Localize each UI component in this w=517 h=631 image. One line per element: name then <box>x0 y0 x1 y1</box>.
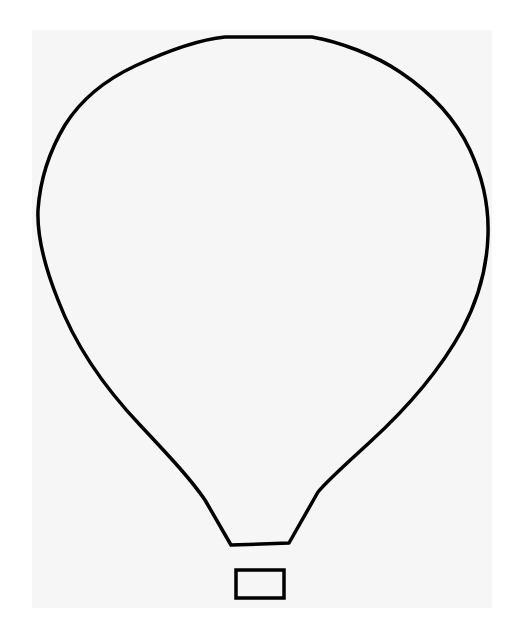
balloon-envelope <box>38 37 488 545</box>
balloon-basket <box>236 570 284 598</box>
balloon-drawing <box>0 0 517 631</box>
